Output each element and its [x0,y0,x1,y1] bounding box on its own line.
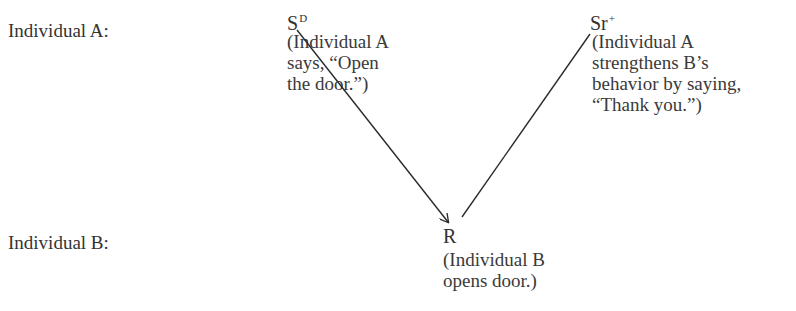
arrow-sd-to-r [297,30,448,222]
line-r-to-sr [462,34,590,217]
connector-lines [0,0,796,311]
